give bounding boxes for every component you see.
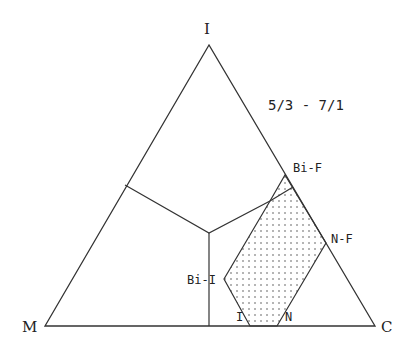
label-i: I — [236, 310, 243, 324]
vertex-label-c: C — [381, 318, 392, 336]
phase-boundary-lines — [125, 185, 270, 233]
label-bi-f: Bi-F — [293, 161, 322, 175]
label-n: N — [285, 310, 292, 324]
label-bi-i: Bi-I — [187, 273, 216, 287]
diagram-title: 5/3 - 7/1 — [268, 97, 344, 113]
vertex-label-i: I — [204, 20, 210, 38]
vertex-label-m: M — [22, 318, 37, 336]
label-n-f: N-F — [331, 232, 353, 246]
ternary-diagram: I M C 5/3 - 7/1 Bi-F N-F Bi-I I N — [0, 0, 413, 351]
